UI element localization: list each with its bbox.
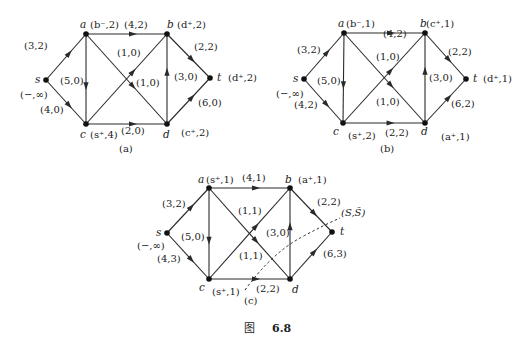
edge-label-s-c: (4,2): [294, 99, 318, 110]
arrowhead-icon: [83, 82, 88, 90]
node-label-s: (−,∞): [20, 89, 48, 100]
node-name-d: d: [163, 128, 170, 140]
node-label-d: (c⁺,2): [181, 127, 209, 138]
node-b: [164, 31, 170, 37]
node-label-b: (a⁺,1): [298, 174, 327, 185]
cut-label: (S,S̄): [341, 207, 365, 218]
node-name-s: s: [293, 72, 299, 84]
edge-label-d-b: (3,0): [174, 71, 198, 82]
node-c: [83, 121, 89, 127]
subfigure-caption-b: (b): [380, 143, 394, 154]
node-label-t: (d⁺,2): [228, 72, 257, 83]
nodes-layer: [43, 30, 469, 282]
node-label-a: (b⁻,2): [90, 19, 119, 30]
node-name-d: d: [421, 125, 428, 137]
edge-label-d-t: (6,3): [323, 248, 347, 259]
node-label-c: (s⁺,1): [212, 286, 240, 297]
node-name-b: b: [167, 18, 174, 30]
node-label-s: (−,∞): [137, 240, 165, 251]
edge-label-b-t: (2,2): [448, 46, 472, 57]
node-label-a: (s⁺,1): [206, 174, 234, 185]
node-name-c: c: [199, 281, 205, 293]
node-label-t: (d⁺,1): [483, 73, 512, 84]
edge-label-a-d: (1,0): [376, 96, 400, 107]
edge-s-a: [167, 188, 209, 233]
edge-label-b-t: (2,2): [317, 196, 341, 207]
node-a: [206, 185, 212, 191]
arrowhead-icon: [422, 67, 427, 75]
node-name-t: t: [473, 72, 478, 84]
node-name-c: c: [80, 128, 86, 140]
edge-s-a: [46, 34, 86, 80]
node-a: [83, 31, 89, 37]
node-d: [287, 276, 293, 282]
node-c: [340, 120, 346, 126]
diagram-c-labels: (3,2)(4,3)(4,1)(5,0)(1,1)(1,1)(2,2)(3,0)…: [137, 172, 365, 306]
edge-label-s-a: (3,2): [297, 44, 321, 55]
figure-6-8: (3,2)(4,0)(4,2)(5,0)(1,0)(1,0)(2,0)(3,0)…: [0, 0, 518, 344]
arrowhead-icon: [341, 81, 346, 89]
node-name-t: t: [340, 225, 345, 237]
edge-label-a-d: (1,1): [239, 250, 263, 261]
labels-layer: (3,2)(4,0)(4,2)(5,0)(1,0)(1,0)(2,0)(3,0)…: [20, 17, 512, 306]
edge-a-c: [343, 33, 344, 123]
diagram-b-labels: (3,2)(4,2)(4,2)(5,0)(1,0)(1,0)(2,2)(3,0)…: [276, 17, 512, 154]
node-name-s: s: [156, 226, 162, 238]
edge-label-a-b: (4,2): [124, 19, 148, 30]
edge-label-d-t: (6,0): [198, 97, 222, 108]
node-t: [463, 76, 469, 82]
figure-caption-number: 6.8: [272, 322, 291, 335]
node-label-d: (a⁺,1): [441, 131, 470, 142]
arrowhead-icon: [164, 68, 169, 76]
diagram-a-labels: (3,2)(4,0)(4,2)(5,0)(1,0)(1,0)(2,0)(3,0)…: [20, 18, 257, 154]
node-name-a: a: [338, 17, 344, 29]
node-label-c: (s⁺,2): [348, 130, 376, 141]
node-t: [329, 229, 335, 235]
edge-label-c-b: (1,0): [376, 51, 400, 62]
edge-b-t: [290, 188, 332, 232]
edge-label-s-a: (3,2): [24, 40, 48, 51]
edge-label-s-c: (4,3): [157, 253, 181, 264]
node-a: [341, 30, 347, 36]
edge-label-b-t: (2,2): [194, 41, 218, 52]
edge-label-a-d: (1,0): [136, 77, 160, 88]
subfigure-caption-a: (a): [119, 143, 133, 154]
edge-label-c-d: (2,2): [385, 127, 409, 138]
node-b: [287, 185, 293, 191]
node-t: [207, 75, 213, 81]
arrowhead-icon: [129, 31, 137, 36]
edge-label-a-b: (4,1): [242, 172, 266, 183]
edge-label-a-c: (5,0): [181, 231, 205, 242]
edge-label-c-b: (1,0): [117, 47, 141, 58]
node-b: [422, 30, 428, 36]
node-label-b: (d⁺,2): [177, 19, 206, 30]
arrowhead-icon: [252, 185, 260, 190]
edge-label-a-b: (4,2): [383, 28, 407, 39]
node-label-s: (−,∞): [276, 88, 304, 99]
node-d: [164, 121, 170, 127]
node-c: [206, 276, 212, 282]
node-s: [164, 230, 170, 236]
edge-label-a-c: (5,0): [317, 75, 341, 86]
edge-label-s-a: (3,2): [162, 198, 186, 209]
edge-label-c-b: (1,1): [238, 205, 262, 216]
arrowhead-icon: [206, 237, 211, 245]
network-flow-diagrams: (3,2)(4,0)(4,2)(5,0)(1,0)(1,0)(2,0)(3,0)…: [0, 0, 518, 344]
node-name-a: a: [198, 173, 204, 185]
node-name-d: d: [292, 283, 299, 295]
node-name-a: a: [80, 18, 86, 30]
node-name-s: s: [35, 73, 41, 85]
node-label-c: (s⁺,4): [90, 129, 118, 140]
edge-label-s-c: (4,0): [40, 104, 64, 115]
node-s: [43, 77, 49, 83]
edge-label-d-b: (3,0): [266, 227, 290, 238]
node-name-t: t: [217, 71, 222, 83]
edge-label-c-d: (2,0): [121, 125, 145, 136]
node-label-b: (c⁺,1): [426, 18, 454, 29]
node-s: [301, 76, 307, 82]
edge-label-d-t: (6,2): [451, 98, 475, 109]
node-name-c: c: [333, 125, 339, 137]
node-name-b: b: [285, 173, 292, 185]
subfigure-caption-c: (c): [244, 295, 258, 306]
arrowhead-icon: [252, 276, 260, 281]
